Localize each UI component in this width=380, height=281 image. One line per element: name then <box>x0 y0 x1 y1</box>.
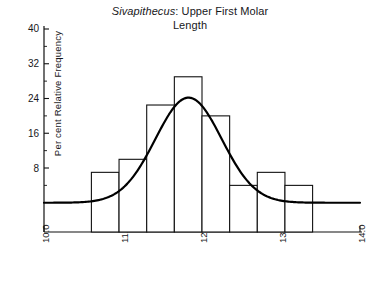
chart-plot-area <box>0 0 380 281</box>
histogram-bar <box>174 77 202 232</box>
histogram-bar <box>285 185 313 232</box>
chart-figure: Sivapithecus: Upper First Molar Length P… <box>0 0 380 281</box>
histogram-bars <box>91 77 312 232</box>
histogram-bar <box>230 185 258 232</box>
histogram-bar <box>119 159 147 232</box>
y-axis-ticks <box>44 29 49 185</box>
histogram-bar <box>147 105 175 232</box>
histogram-bar <box>257 172 285 232</box>
histogram-bar <box>91 172 119 232</box>
histogram-bar <box>202 116 230 232</box>
